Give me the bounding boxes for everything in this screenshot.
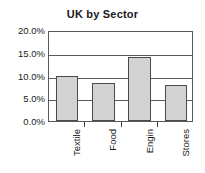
bar xyxy=(56,76,78,122)
bar xyxy=(165,85,187,121)
bar xyxy=(92,83,114,121)
x-axis-tick xyxy=(121,122,122,127)
y-axis-tick-label: 20.0% xyxy=(0,25,45,36)
bar xyxy=(128,57,150,121)
bar-chart: UK by Sector 0.0%5.0%10.0%15.0%20.0% Tex… xyxy=(0,0,205,173)
y-axis-tick-label: 0.0% xyxy=(0,116,45,127)
y-axis-tick-label: 10.0% xyxy=(0,71,45,82)
x-axis-tick-label: Food xyxy=(107,129,118,151)
x-axis-tick-label: Textile xyxy=(71,129,82,156)
y-axis-tick-label: 15.0% xyxy=(0,48,45,59)
y-axis-tick-label: 5.0% xyxy=(0,93,45,104)
x-axis-tick-label: Engin xyxy=(144,129,155,153)
x-axis-tick-label: Stores xyxy=(180,129,191,156)
x-axis-tick xyxy=(157,122,158,127)
x-axis-tick xyxy=(84,122,85,127)
chart-title: UK by Sector xyxy=(0,8,205,20)
plot-area xyxy=(48,31,193,122)
gridline xyxy=(49,55,192,56)
